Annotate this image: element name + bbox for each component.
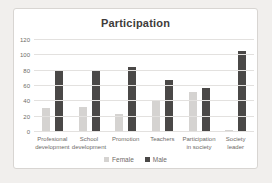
- y-tick-label: 40: [23, 98, 30, 104]
- plot-area: 020406080100120: [34, 40, 254, 132]
- bar-male: [238, 51, 246, 132]
- y-tick-label: 60: [23, 83, 30, 89]
- gridline: [34, 70, 254, 71]
- x-axis-label: Teachers: [144, 136, 181, 151]
- legend-item-male: Male: [145, 156, 167, 163]
- gridline: [34, 85, 254, 86]
- legend-swatch-female: [104, 157, 109, 162]
- bar-male: [92, 71, 100, 132]
- bar-female: [79, 107, 87, 132]
- gridline: [34, 100, 254, 101]
- y-tick-label: 0: [27, 129, 30, 135]
- x-axis-label: Society leader: [217, 136, 254, 151]
- legend-swatch-male: [145, 157, 150, 162]
- x-axis-label: Promotion: [107, 136, 144, 151]
- bar-male: [165, 80, 173, 132]
- y-tick-label: 20: [23, 114, 30, 120]
- x-axis-labels: Profesional developmentSchool developmen…: [34, 136, 254, 151]
- gridline: [34, 131, 254, 132]
- chart-title: Participation: [14, 17, 257, 29]
- y-tick-label: 80: [23, 68, 30, 74]
- x-axis-label: School development: [71, 136, 108, 151]
- x-axis-label: Participation in society: [181, 136, 218, 151]
- bar-male: [202, 88, 210, 132]
- y-tick-label: 100: [20, 52, 30, 58]
- gridline: [34, 39, 254, 40]
- y-tick-label: 120: [20, 37, 30, 43]
- bar-female: [189, 92, 197, 132]
- bar-female: [42, 108, 50, 132]
- legend-label: Female: [112, 156, 134, 163]
- gridline: [34, 54, 254, 55]
- x-axis-label: Profesional development: [34, 136, 71, 151]
- gridline: [34, 116, 254, 117]
- legend-label: Male: [153, 156, 167, 163]
- legend-item-female: Female: [104, 156, 134, 163]
- legend: FemaleMale: [14, 156, 257, 163]
- chart[interactable]: Participation 020406080100120 Profesiona…: [13, 8, 258, 169]
